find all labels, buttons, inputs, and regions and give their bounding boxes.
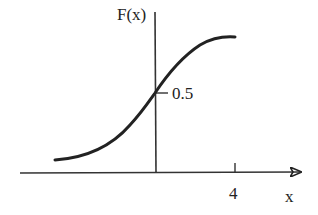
x-axis-label: x [285, 187, 294, 206]
x-tick-label: 4 [229, 184, 238, 203]
cdf-diagram: F(x) 0.5 4 x [0, 0, 318, 215]
x-axis [20, 172, 300, 173]
cdf-curve [55, 37, 235, 160]
y-marker-label: 0.5 [172, 84, 193, 103]
y-axis-label: F(x) [117, 5, 146, 24]
